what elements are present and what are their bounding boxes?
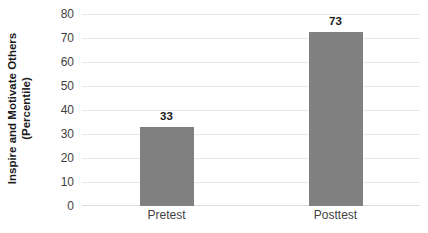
y-axis-title: Inspire and Motivate Others (Percentile) [0,0,40,216]
y-axis-title-line-1: Inspire and Motivate Others [7,32,21,183]
gridline [82,134,420,135]
x-axis-label-posttest: Posttest [314,208,357,222]
gridline [82,158,420,159]
gridline [82,38,420,39]
y-tick-label: 40 [61,104,74,116]
y-axis-tick-labels: 80 70 60 50 40 30 20 10 0 [40,14,78,206]
x-axis-label-pretest: Pretest [147,208,185,222]
y-tick-label: 0 [67,200,74,212]
gridline [82,86,420,87]
y-axis-title-line-2: (Percentile) [20,32,34,183]
bar-posttest[interactable] [309,32,363,206]
gridline [82,62,420,63]
bar-chart: Inspire and Motivate Others (Percentile)… [0,0,428,233]
y-tick-label: 10 [61,176,74,188]
bar-value-label: 73 [329,15,342,27]
y-tick-label: 50 [61,80,74,92]
bar-pretest[interactable] [140,127,194,206]
gridline [82,182,420,183]
bar-value-label: 33 [160,110,173,122]
y-tick-label: 60 [61,56,74,68]
y-tick-label: 70 [61,32,74,44]
y-tick-label: 30 [61,128,74,140]
y-tick-label: 80 [61,8,74,20]
axis-baseline [82,205,420,206]
y-tick-label: 20 [61,152,74,164]
plot-area: 33 73 [82,14,420,206]
gridline [82,110,420,111]
gridline [82,14,420,15]
x-axis-category-labels: Pretest Posttest [82,208,420,228]
